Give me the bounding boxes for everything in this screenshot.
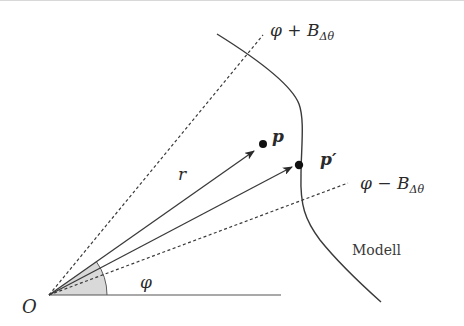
upper-bound-subscript: Δθ xyxy=(319,30,334,43)
radius-label: r xyxy=(178,166,186,183)
model-label: Modell xyxy=(352,243,401,257)
point-p-prime-label: p′ xyxy=(320,151,336,168)
point-p-dot xyxy=(259,140,267,148)
point-p-prime-dot xyxy=(295,161,303,169)
angle-label: φ xyxy=(140,274,152,291)
lower-bound-label: φ − BΔθ xyxy=(360,175,424,192)
upper-bound-prefix: φ + B xyxy=(270,20,319,40)
point-p-label: p xyxy=(272,128,284,145)
upper-bound-dashed-line xyxy=(49,35,263,295)
lower-bound-prefix: φ − B xyxy=(360,173,409,193)
upper-bound-label: φ + BΔθ xyxy=(270,22,334,39)
diagram-canvas xyxy=(0,0,464,326)
origin-label: O xyxy=(22,298,37,316)
lower-bound-subscript: Δθ xyxy=(409,183,424,196)
arrow-p-prime xyxy=(49,167,292,295)
